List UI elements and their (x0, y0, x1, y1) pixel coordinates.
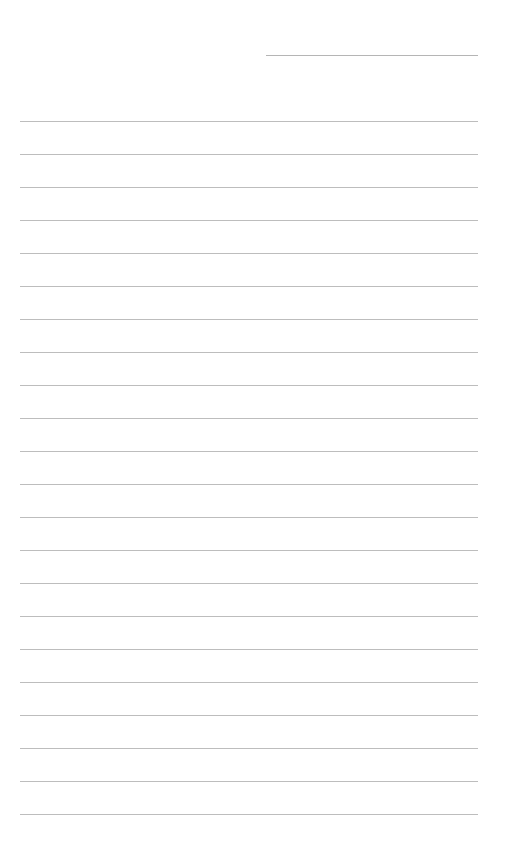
line-rule (20, 253, 478, 254)
lined-paper-sheet (0, 0, 519, 865)
line-rule (20, 187, 478, 188)
ruled-line[interactable] (20, 484, 478, 517)
ruled-line[interactable] (20, 649, 478, 682)
line-rule (20, 319, 478, 320)
ruled-line[interactable] (20, 715, 478, 748)
line-rule (20, 385, 478, 386)
line-rule (20, 352, 478, 353)
ruled-line[interactable] (20, 451, 478, 484)
ruled-line[interactable] (20, 418, 478, 451)
ruled-line[interactable] (20, 781, 478, 814)
line-rule (20, 781, 478, 782)
ruled-line[interactable] (20, 220, 478, 253)
line-rule (20, 814, 478, 815)
ruled-line[interactable] (20, 748, 478, 781)
ruled-line[interactable] (20, 352, 478, 385)
line-rule (20, 418, 478, 419)
line-rule (20, 583, 478, 584)
ruled-line[interactable] (20, 550, 478, 583)
ruled-line[interactable] (20, 286, 478, 319)
ruled-line[interactable] (20, 121, 478, 154)
line-rule (20, 682, 478, 683)
line-rule (20, 286, 478, 287)
line-rule (20, 451, 478, 452)
ruled-line[interactable] (20, 385, 478, 418)
ruled-line[interactable] (20, 154, 478, 187)
ruled-line[interactable] (20, 187, 478, 220)
ruled-line[interactable] (20, 814, 478, 847)
ruled-line[interactable] (20, 517, 478, 550)
line-rule (20, 517, 478, 518)
ruled-line[interactable] (20, 682, 478, 715)
header-rule (266, 55, 478, 56)
ruled-line[interactable] (20, 616, 478, 649)
line-rule (20, 715, 478, 716)
ruled-line[interactable] (20, 583, 478, 616)
line-rule (20, 616, 478, 617)
header-field[interactable] (266, 38, 478, 54)
line-rule (20, 220, 478, 221)
line-rule (20, 154, 478, 155)
line-rule (20, 484, 478, 485)
line-rule (20, 121, 478, 122)
ruled-line[interactable] (20, 253, 478, 286)
ruled-line[interactable] (20, 319, 478, 352)
line-rule (20, 748, 478, 749)
ruled-lines (20, 121, 478, 847)
line-rule (20, 649, 478, 650)
line-rule (20, 550, 478, 551)
